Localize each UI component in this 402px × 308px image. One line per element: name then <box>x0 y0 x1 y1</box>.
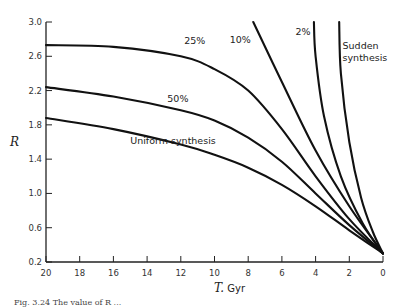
y-tick-label: 3.0 <box>28 17 42 27</box>
y-tick-label: 1.0 <box>28 188 42 198</box>
x-tick-label: 10 <box>209 268 220 278</box>
x-tick-label: 16 <box>108 268 119 278</box>
y-tick-label: 1.4 <box>28 154 42 164</box>
x-tick-label: 12 <box>175 268 186 278</box>
x-tick-label: 4 <box>313 268 318 278</box>
x-tick-label: 0 <box>380 268 385 278</box>
figure-caption: Fig. 3.24 The value of R ... <box>14 298 121 307</box>
x-axis-title: T. Gyr <box>214 281 246 295</box>
x-tick-label: 8 <box>245 268 250 278</box>
x-tick-label: 18 <box>74 268 85 278</box>
y-tick-label: 0.6 <box>28 223 42 233</box>
x-tick-label: 2 <box>347 268 352 278</box>
curve-label-uniform-synthesis: Uniform synthesis <box>130 135 216 146</box>
curve-label-10-: 10% <box>230 34 251 45</box>
curve-50- <box>46 87 383 253</box>
curve-label-25-: 25% <box>184 35 205 46</box>
chart: 0.20.61.01.41.82.22.63.0 201816141210864… <box>0 0 402 308</box>
x-tick-label: 20 <box>41 268 52 278</box>
x-tick-label: 6 <box>279 268 284 278</box>
curve-labels: 25%50%Uniform synthesis10%2%Suddensynthe… <box>130 26 387 146</box>
curve-label-50-: 50% <box>167 93 188 104</box>
y-tick-label: 0.2 <box>28 257 42 267</box>
y-axis-title: R <box>9 135 19 149</box>
curve-label-2-: 2% <box>295 26 310 37</box>
x-tick-label: 14 <box>142 268 153 278</box>
y-tick-label: 2.2 <box>28 86 42 96</box>
y-tick-label: 1.8 <box>28 120 42 130</box>
y-tick-label: 2.6 <box>28 51 42 61</box>
y-ticks: 0.20.61.01.41.82.22.63.0 <box>28 17 52 267</box>
x-ticks: 20181614121086420 <box>41 256 386 278</box>
curve-label-sudden-synthesis: Suddensynthesis <box>343 40 388 63</box>
